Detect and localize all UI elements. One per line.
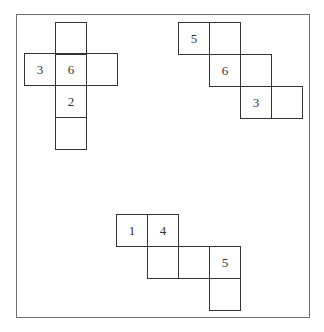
net-c-cell-6: [209, 278, 241, 311]
net-b-cell-4: [240, 54, 272, 87]
net-b-cell-3: 6: [209, 54, 241, 87]
net-b-cell-6: [271, 86, 303, 119]
net-b-cell-1: 5: [178, 22, 210, 55]
net-a-cell-right: [86, 53, 118, 86]
net-c-cell-5: 5: [209, 246, 241, 279]
net-a-cell-left: 3: [24, 53, 56, 86]
net-c-cell-1: 1: [116, 214, 148, 247]
net-a-cell-bottom: [55, 117, 87, 150]
net-a-cell-center: 6: [55, 53, 87, 86]
net-b-cell-5: 3: [240, 86, 272, 119]
net-b-cell-2: [209, 22, 241, 55]
net-a-cell-top: [55, 22, 87, 55]
net-c-cell-2: 4: [147, 214, 179, 247]
net-c-cell-4: [178, 246, 210, 279]
net-c-cell-3: [147, 246, 179, 279]
net-a-cell-below: 2: [55, 85, 87, 118]
